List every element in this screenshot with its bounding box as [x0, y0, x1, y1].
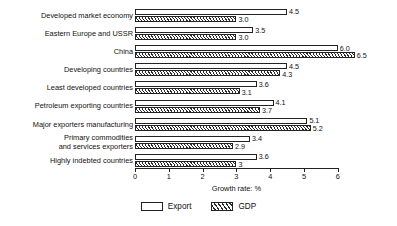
bar-gdp [135, 161, 236, 167]
horizontal-bar-chart: Developed market economyEastern Europe a… [0, 0, 397, 226]
value-label-export: 3.5 [255, 27, 265, 34]
chart-legend: Export GDP [0, 202, 397, 211]
value-label-gdp: 3.0 [238, 34, 248, 41]
value-label-gdp: 4.3 [282, 71, 292, 78]
value-label-export: 4.1 [276, 99, 286, 106]
category-label-column: Developed market economyEastern Europe a… [0, 0, 133, 190]
bar-export [135, 45, 338, 51]
value-label-gdp: 6.5 [357, 52, 367, 59]
legend-label-export: Export [168, 202, 192, 211]
legend-label-gdp: GDP [238, 202, 256, 211]
plot-area: Growth rate: % 01234564.53.03.53.06.06.5… [135, 0, 397, 190]
value-label-gdp: 5.2 [313, 125, 323, 132]
x-axis-tick-label: 4 [268, 173, 272, 181]
value-label-export: 4.5 [289, 8, 299, 15]
bar-gdp [135, 52, 355, 58]
value-label-gdp: 3.1 [242, 89, 252, 96]
bar-export [135, 136, 250, 142]
x-axis-tick-label: 5 [302, 173, 306, 181]
bar-gdp [135, 34, 236, 40]
bar-export [135, 81, 257, 87]
category-label: Highly indebted countries [50, 157, 133, 166]
bar-gdp [135, 107, 260, 113]
bar-export [135, 9, 287, 15]
value-label-export: 3.6 [259, 153, 269, 160]
category-label: Developed market economy [41, 12, 133, 21]
category-label: Developing countries [64, 66, 133, 75]
legend-item-gdp: GDP [211, 202, 256, 211]
x-axis-tick-label: 2 [201, 173, 205, 181]
x-axis-title: Growth rate: % [135, 184, 338, 193]
x-axis-tick-label: 0 [133, 173, 137, 181]
bar-export [135, 118, 307, 124]
bar-gdp [135, 143, 233, 149]
category-label: Eastern Europe and USSR [45, 30, 133, 39]
bar-gdp [135, 70, 280, 76]
bar-gdp [135, 16, 236, 22]
bar-export [135, 27, 253, 33]
bar-gdp [135, 125, 311, 131]
value-label-export: 6.0 [340, 45, 350, 52]
category-label: Primary commodities and services exporte… [59, 134, 133, 151]
value-label-gdp: 3.0 [238, 16, 248, 23]
x-axis-tick-label: 1 [167, 173, 171, 181]
category-label: Petroleum exporting countries [35, 102, 133, 111]
value-label-gdp: 2.9 [235, 143, 245, 150]
bar-export [135, 63, 287, 69]
value-label-export: 4.5 [289, 63, 299, 70]
category-label: Least developed countries [47, 84, 133, 93]
legend-swatch-gdp [211, 202, 233, 211]
x-axis-tick-label: 6 [336, 173, 340, 181]
bar-export [135, 154, 257, 160]
bar-export [135, 100, 274, 106]
x-axis-tick-label: 3 [234, 173, 238, 181]
value-label-export: 3.6 [259, 81, 269, 88]
value-label-gdp: 3 [238, 161, 242, 168]
legend-swatch-export [141, 202, 163, 211]
category-label: Major exporters manufacturing [33, 121, 133, 130]
value-label-gdp: 3.7 [262, 107, 272, 114]
value-label-export: 3.4 [252, 135, 262, 142]
legend-item-export: Export [141, 202, 192, 211]
category-label: China [114, 48, 133, 57]
bar-gdp [135, 88, 240, 94]
